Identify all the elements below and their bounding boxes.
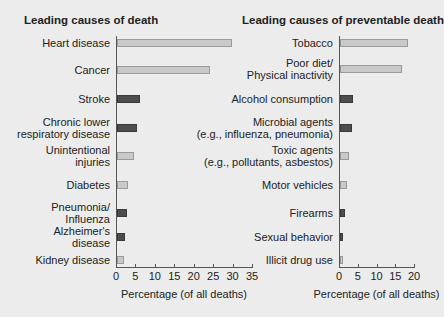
x-axis: [116, 267, 253, 268]
x-tick: [358, 264, 359, 267]
bar: [340, 152, 349, 160]
bar: [340, 209, 345, 217]
x-tick: [213, 264, 214, 267]
chart-title: Leading causes of preventable death: [242, 14, 444, 26]
bar: [340, 39, 408, 47]
chart-title: Leading causes of death: [24, 14, 158, 26]
x-tick-label: 25: [207, 270, 219, 282]
bar: [117, 39, 232, 47]
x-tick-label: 30: [226, 270, 238, 282]
category-label: Kidney disease: [35, 254, 110, 266]
bar: [340, 124, 352, 132]
x-tick-label: 10: [370, 270, 382, 282]
x-tick: [252, 264, 253, 267]
x-tick-label: 5: [132, 270, 138, 282]
bar: [117, 233, 125, 241]
category-label: Unintentional injuries: [46, 144, 110, 168]
x-tick: [233, 264, 234, 267]
category-label: Pneumonia/ Influenza: [51, 201, 110, 225]
x-tick-label: 20: [408, 270, 420, 282]
bar: [340, 181, 347, 189]
category-label: Stroke: [78, 93, 110, 105]
bar: [117, 124, 137, 132]
category-label: Chronic lower respiratory disease: [17, 116, 110, 140]
x-axis-label: Percentage (of all deaths): [314, 288, 440, 300]
x-tick: [414, 264, 415, 267]
category-label: Illicit drug use: [266, 254, 333, 266]
category-label: Firearms: [290, 207, 333, 219]
x-tick: [174, 264, 175, 267]
bar: [117, 152, 134, 160]
x-tick: [135, 264, 136, 267]
bar: [340, 256, 343, 264]
bar: [117, 209, 127, 217]
x-axis: [339, 267, 415, 268]
bar: [117, 66, 210, 74]
x-tick: [194, 264, 195, 267]
bar: [117, 95, 140, 103]
x-tick: [395, 264, 396, 267]
category-label: Tobacco: [292, 37, 333, 49]
bar: [117, 256, 124, 264]
bar: [340, 233, 343, 241]
x-tick: [339, 264, 340, 267]
x-tick-label: 20: [188, 270, 200, 282]
x-axis-label: Percentage (of all deaths): [121, 288, 247, 300]
category-label: Cancer: [75, 64, 110, 76]
x-tick-label: 15: [389, 270, 401, 282]
category-label: Alzheimer's disease: [53, 225, 110, 249]
x-tick: [116, 264, 117, 267]
x-tick-label: 10: [149, 270, 161, 282]
category-label: Diabetes: [67, 179, 110, 191]
category-label: Poor diet/ Physical inactivity: [247, 57, 333, 81]
category-label: Toxic agents (e.g., pollutants, asbestos…: [204, 144, 333, 168]
category-label: Heart disease: [42, 37, 110, 49]
x-tick-label: 15: [168, 270, 180, 282]
category-label: Microbial agents (e.g., influenza, pneum…: [197, 116, 333, 140]
x-tick-label: 35: [246, 270, 258, 282]
x-tick: [155, 264, 156, 267]
category-label: Sexual behavior: [254, 231, 333, 243]
x-tick-label: 5: [355, 270, 361, 282]
category-label: Alcohol consumption: [231, 93, 333, 105]
x-tick-label: 0: [113, 270, 119, 282]
bar: [340, 95, 353, 103]
x-tick-label: 0: [336, 270, 342, 282]
bar: [117, 181, 128, 189]
bar: [340, 65, 402, 73]
x-tick: [377, 264, 378, 267]
category-label: Motor vehicles: [262, 179, 333, 191]
